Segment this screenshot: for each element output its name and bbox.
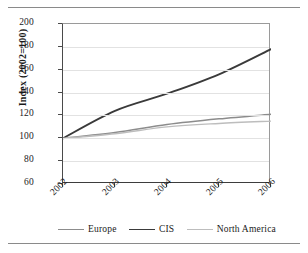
y-tick-label: 180 <box>19 41 34 51</box>
legend-label: Europe <box>88 224 117 234</box>
y-tick-mark <box>58 46 62 47</box>
y-tick-label: 160 <box>19 64 34 74</box>
gridline <box>63 138 269 139</box>
y-tick-label: 100 <box>19 132 34 142</box>
y-tick-label: 80 <box>24 155 34 165</box>
legend-label: CIS <box>159 224 174 234</box>
y-tick-label: 200 <box>19 18 34 28</box>
gridline <box>63 70 269 71</box>
y-tick-mark <box>58 69 62 70</box>
y-tick-mark <box>58 114 62 115</box>
chart-legend: EuropeCISNorth America <box>58 222 276 236</box>
y-tick-mark <box>58 137 62 138</box>
legend-item-europe[interactable]: Europe <box>58 224 117 234</box>
x-tick-label: 2002 <box>48 176 69 197</box>
y-tick-label: 140 <box>19 87 34 97</box>
y-tick-label: 60 <box>24 178 34 188</box>
bottom-divider-rule <box>8 243 300 244</box>
legend-swatch <box>58 229 84 230</box>
gridline <box>63 93 269 94</box>
legend-label: North America <box>217 224 276 234</box>
series-lines <box>63 24 271 184</box>
gridline <box>63 161 269 162</box>
y-tick-mark <box>58 92 62 93</box>
legend-item-north-america[interactable]: North America <box>187 224 276 234</box>
y-tick-mark <box>58 160 62 161</box>
gridline <box>63 115 269 116</box>
legend-swatch <box>129 229 155 230</box>
y-tick-label: 120 <box>19 109 34 119</box>
gridline <box>63 47 269 48</box>
chart-figure: Index (2002=100) EuropeCISNorth America … <box>0 0 308 253</box>
series-line-north-america <box>63 121 271 138</box>
legend-swatch <box>187 229 213 230</box>
legend-item-cis[interactable]: CIS <box>129 224 174 234</box>
y-tick-mark <box>58 23 62 24</box>
top-divider-rule <box>8 7 300 8</box>
plot-area <box>62 23 270 183</box>
